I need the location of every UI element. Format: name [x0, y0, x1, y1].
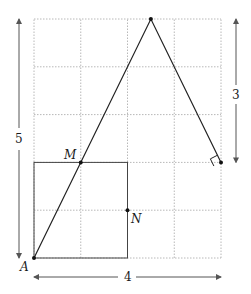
point-n — [126, 208, 130, 212]
height-dimension-label: 5 — [15, 132, 23, 146]
point-label-a: A — [19, 260, 29, 274]
point-label-m: M — [63, 148, 77, 162]
point-a — [32, 256, 36, 260]
geometry-diagram: 5 4 3 A M N — [0, 0, 251, 294]
right-angle-mark — [210, 155, 217, 166]
diagram-canvas: 5 4 3 A M N — [0, 0, 251, 294]
point-t — [149, 17, 153, 21]
point-m — [79, 160, 83, 164]
width-dimension-label: 4 — [124, 270, 132, 284]
point-r — [219, 160, 223, 164]
point-label-n: N — [130, 212, 142, 226]
right-dimension-label: 3 — [232, 88, 240, 102]
